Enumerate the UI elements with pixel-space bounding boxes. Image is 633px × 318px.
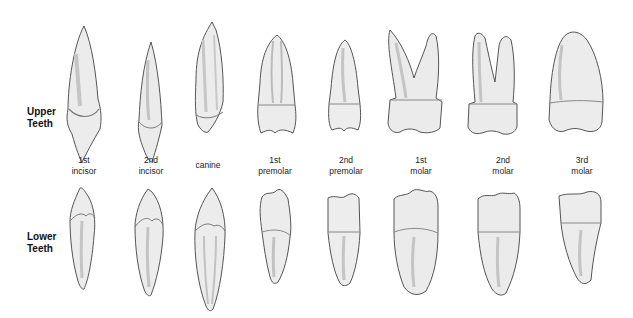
upper-label-line2: Teeth: [27, 118, 56, 130]
upper-label-line1: Upper: [27, 106, 56, 118]
lower-2nd-molar-illustration: [474, 187, 522, 299]
upper-3rd-molar-illustration: [547, 30, 605, 134]
upper-2nd-premolar-illustration: [323, 38, 365, 133]
col-line1: 1st: [49, 155, 119, 166]
upper-teeth-label: Upper Teeth: [27, 106, 56, 130]
lower-2nd-premolar-illustration: [322, 188, 364, 288]
col-line1: 3rd: [547, 155, 617, 166]
lower-canine-illustration: [190, 186, 230, 314]
lower-2nd-incisor-illustration: [130, 187, 168, 299]
col-line2: premolar: [311, 166, 381, 177]
lower-3rd-molar-illustration: [555, 188, 605, 288]
col-line2: molar: [547, 166, 617, 177]
column-label-2nd-premolar: 2nd premolar: [311, 155, 381, 177]
lower-1st-incisor-illustration: [66, 186, 100, 292]
col-line1: 1st: [386, 155, 456, 166]
upper-2nd-incisor-illustration: [134, 40, 164, 165]
column-label-2nd-molar: 2nd molar: [468, 155, 538, 177]
lower-label-line2: Teeth: [27, 243, 56, 255]
col-line1: canine: [173, 160, 243, 171]
col-line2: premolar: [240, 166, 310, 177]
lower-1st-molar-illustration: [390, 187, 442, 297]
lower-teeth-label: Lower Teeth: [27, 231, 56, 255]
upper-canine-illustration: [190, 20, 226, 135]
upper-1st-premolar-illustration: [253, 33, 299, 135]
column-label-1st-molar: 1st molar: [386, 155, 456, 177]
col-line2: molar: [468, 166, 538, 177]
col-line1: 2nd: [311, 155, 381, 166]
col-line1: 1st: [240, 155, 310, 166]
column-label-1st-incisor: 1st incisor: [49, 155, 119, 177]
col-line1: 2nd: [468, 155, 538, 166]
lower-label-line1: Lower: [27, 231, 56, 243]
lower-1st-premolar-illustration: [254, 187, 294, 285]
upper-1st-incisor-illustration: [64, 24, 104, 166]
col-line2: incisor: [49, 166, 119, 177]
upper-2nd-molar-illustration: [463, 32, 523, 136]
column-label-1st-premolar: 1st premolar: [240, 155, 310, 177]
column-label-3rd-molar: 3rd molar: [547, 155, 617, 177]
column-label-canine: canine: [173, 160, 243, 171]
col-line2: molar: [386, 166, 456, 177]
upper-1st-molar-illustration: [384, 28, 449, 136]
